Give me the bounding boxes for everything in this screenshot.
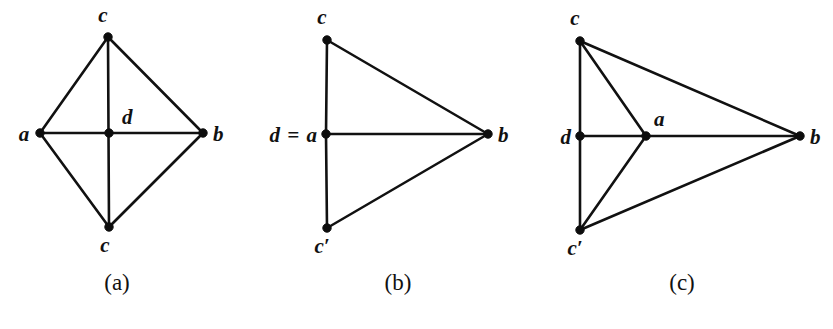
panel-b: cd = abc′(b) bbox=[270, 5, 509, 295]
vertex-label-a: a bbox=[19, 122, 30, 146]
panel-a: cadbc(a) bbox=[19, 3, 224, 295]
graph-vertex-d bbox=[576, 132, 584, 140]
panel-c: cdabc′(c) bbox=[561, 6, 821, 295]
graph-vertex-c_bottom bbox=[105, 223, 113, 231]
figure-container: cadbc(a)cd = abc′(b)cdabc′(c) bbox=[0, 0, 833, 329]
graph-edge-c_top-a bbox=[40, 37, 108, 133]
vertex-label-da: d = a bbox=[270, 123, 318, 147]
graph-vertex-da bbox=[322, 130, 330, 138]
graph-vertex-cprime bbox=[576, 226, 584, 234]
vertex-label-b: b bbox=[810, 125, 821, 149]
panel-c-caption: (c) bbox=[669, 270, 695, 295]
panel-a-caption: (a) bbox=[104, 270, 130, 295]
graph-vertex-c bbox=[576, 37, 584, 45]
panel-b-edges bbox=[326, 40, 488, 228]
panel-a-vertices: cadbc bbox=[19, 3, 224, 257]
vertex-label-cprime: c′ bbox=[567, 236, 582, 260]
graph-edge-c-b bbox=[327, 40, 488, 134]
graph-vertex-b bbox=[199, 129, 207, 137]
vertex-label-c: c bbox=[317, 5, 327, 29]
vertex-label-c_top: c bbox=[98, 3, 108, 27]
panel-c-edges bbox=[580, 41, 800, 230]
graph-edge-c-da bbox=[326, 40, 327, 134]
vertex-label-d: d bbox=[561, 125, 572, 149]
panel-b-vertices: cd = abc′ bbox=[270, 5, 509, 258]
graph-vertex-c bbox=[323, 36, 331, 44]
vertex-label-c: c bbox=[570, 6, 580, 30]
vertex-label-b: b bbox=[213, 122, 224, 146]
graph-edge-cprime-b bbox=[327, 134, 488, 228]
vertex-label-b: b bbox=[498, 123, 509, 147]
graph-diagram-svg: cadbc(a)cd = abc′(b)cdabc′(c) bbox=[0, 0, 833, 329]
graph-edge-a-c_bottom bbox=[40, 133, 109, 227]
graph-edge-da-cprime bbox=[326, 134, 327, 228]
panel-a-edges bbox=[40, 37, 203, 227]
graph-vertex-b bbox=[796, 132, 804, 140]
graph-vertex-b bbox=[484, 130, 492, 138]
graph-vertex-a bbox=[642, 132, 650, 140]
panel-b-caption: (b) bbox=[385, 270, 412, 295]
graph-vertex-c_top bbox=[104, 33, 112, 41]
svg-root: cadbc(a)cd = abc′(b)cdabc′(c) bbox=[19, 3, 821, 295]
graph-vertex-d_center bbox=[105, 129, 113, 137]
vertex-label-a: a bbox=[654, 107, 665, 131]
graph-vertex-cprime bbox=[323, 224, 331, 232]
vertex-label-c_bottom: c bbox=[100, 233, 110, 257]
graph-edge-b-c_bottom bbox=[109, 133, 203, 227]
graph-vertex-a bbox=[36, 129, 44, 137]
vertex-label-cprime: c′ bbox=[314, 234, 329, 258]
vertex-label-d_center: d bbox=[122, 105, 133, 129]
